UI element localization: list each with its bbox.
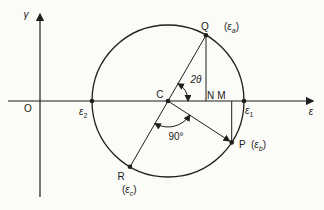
origin-label: O bbox=[24, 103, 32, 114]
center-label: C bbox=[156, 89, 163, 100]
eps2-label: ε2 bbox=[79, 106, 87, 119]
arc-2theta bbox=[178, 84, 188, 101]
eps-a-label: (εa) bbox=[224, 21, 239, 34]
point-m-label: M bbox=[217, 90, 225, 101]
mohr-strain-circle-figure: γ ε O ε2 ε1 C N M 2θ 90° Q (εa) P (εb) R… bbox=[0, 0, 324, 210]
eps-b-label: (εb) bbox=[251, 139, 266, 152]
gamma-axis-label: γ bbox=[24, 9, 30, 20]
center-c-dot bbox=[166, 99, 171, 104]
angle-2theta-label: 2θ bbox=[190, 74, 203, 85]
eps-c-label: (εc) bbox=[122, 184, 137, 197]
point-eps1-dot bbox=[242, 99, 247, 104]
epsilon-axis-label: ε bbox=[309, 106, 314, 117]
point-r-dot bbox=[128, 165, 133, 170]
diagram-canvas: γ ε O ε2 ε1 C N M 2θ 90° Q (εa) P (εb) R… bbox=[0, 0, 324, 210]
point-eps2-dot bbox=[90, 99, 95, 104]
point-q-label: Q bbox=[201, 21, 209, 32]
point-n-label: N bbox=[207, 90, 214, 101]
point-p-dot bbox=[229, 140, 234, 145]
angle-90-label: 90° bbox=[168, 131, 183, 142]
eps1-label: ε1 bbox=[245, 105, 253, 118]
point-r-label: R bbox=[117, 171, 124, 182]
point-p-label: P bbox=[239, 139, 246, 150]
point-q-dot bbox=[204, 33, 209, 38]
arc-90 bbox=[155, 115, 190, 127]
